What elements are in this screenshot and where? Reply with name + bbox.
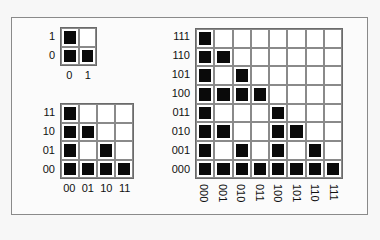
empty-cell <box>233 104 251 123</box>
empty-cell <box>214 66 232 85</box>
empty-cell <box>287 85 305 104</box>
row-label: 10 <box>37 126 55 137</box>
row-label: 0 <box>41 50 55 61</box>
column-label: 000 <box>198 184 209 202</box>
empty-cell <box>324 48 342 67</box>
filled-cell <box>115 160 133 179</box>
empty-cell <box>269 66 287 85</box>
empty-cell <box>324 122 342 141</box>
filled-cell <box>251 85 269 104</box>
empty-cell <box>306 85 324 104</box>
empty-cell <box>324 85 342 104</box>
empty-cell <box>306 29 324 48</box>
empty-cell <box>79 28 97 47</box>
filled-cell <box>269 141 287 160</box>
column-label: 111 <box>328 184 339 201</box>
empty-cell <box>251 122 269 141</box>
empty-cell <box>97 104 115 123</box>
empty-cell <box>233 29 251 48</box>
empty-cell <box>324 141 342 160</box>
filled-cell <box>61 28 79 47</box>
empty-cell <box>251 29 269 48</box>
filled-cell <box>233 66 251 85</box>
filled-cell <box>269 122 287 141</box>
empty-cell <box>287 104 305 123</box>
empty-cell <box>233 122 251 141</box>
filled-cell <box>196 160 214 179</box>
empty-cell <box>214 141 232 160</box>
empty-cell <box>287 48 305 67</box>
filled-cell <box>61 47 79 66</box>
row-label: 001 <box>166 145 190 156</box>
filled-cell <box>214 122 232 141</box>
empty-cell <box>251 104 269 123</box>
filled-cell <box>196 29 214 48</box>
empty-cell <box>306 122 324 141</box>
column-label: 010 <box>235 184 246 202</box>
empty-cell <box>324 104 342 123</box>
filled-cell <box>196 104 214 123</box>
filled-cell <box>61 141 79 160</box>
empty-cell <box>306 48 324 67</box>
empty-cell <box>269 29 287 48</box>
row-label: 111 <box>166 31 190 42</box>
empty-cell <box>251 48 269 67</box>
filled-cell <box>61 123 79 142</box>
column-label: 100 <box>272 184 283 202</box>
filled-cell <box>287 160 305 179</box>
row-label: 010 <box>166 126 190 137</box>
column-label: 01 <box>79 183 98 194</box>
filled-cell <box>61 104 79 123</box>
row-label: 101 <box>166 69 190 80</box>
filled-cell <box>79 123 97 142</box>
empty-cell <box>324 29 342 48</box>
column-label: 10 <box>97 183 116 194</box>
empty-cell <box>306 66 324 85</box>
row-label: 000 <box>166 164 190 175</box>
filled-cell <box>306 160 324 179</box>
column-label: 11 <box>116 183 135 194</box>
filled-cell <box>79 160 97 179</box>
filled-cell <box>196 85 214 104</box>
row-label: 011 <box>166 107 190 118</box>
empty-cell <box>251 141 269 160</box>
column-label: 1 <box>79 70 98 81</box>
row-label: 11 <box>37 107 55 118</box>
empty-cell <box>306 104 324 123</box>
filled-cell <box>61 160 79 179</box>
filled-cell <box>306 141 324 160</box>
filled-cell <box>97 141 115 160</box>
column-label: 001 <box>217 184 228 202</box>
grid-2x2 <box>60 27 97 66</box>
empty-cell <box>79 141 97 160</box>
empty-cell <box>251 66 269 85</box>
empty-cell <box>269 48 287 67</box>
filled-cell <box>233 141 251 160</box>
empty-cell <box>233 48 251 67</box>
filled-cell <box>233 160 251 179</box>
filled-cell <box>214 48 232 67</box>
empty-cell <box>214 104 232 123</box>
empty-cell <box>287 29 305 48</box>
empty-cell <box>79 104 97 123</box>
empty-cell <box>269 85 287 104</box>
row-label: 01 <box>37 145 55 156</box>
empty-cell <box>115 104 133 123</box>
empty-cell <box>214 29 232 48</box>
filled-cell <box>196 66 214 85</box>
column-label: 0 <box>60 70 79 81</box>
filled-cell <box>269 104 287 123</box>
filled-cell <box>196 122 214 141</box>
empty-cell <box>324 66 342 85</box>
column-label: 011 <box>254 184 265 202</box>
empty-cell <box>115 123 133 142</box>
empty-cell <box>97 123 115 142</box>
row-label: 100 <box>166 88 190 99</box>
filled-cell <box>214 160 232 179</box>
filled-cell <box>287 122 305 141</box>
grid-4x4 <box>60 103 134 179</box>
row-label: 00 <box>37 164 55 175</box>
column-label: 110 <box>309 184 320 202</box>
empty-cell <box>115 141 133 160</box>
column-label: 00 <box>60 183 79 194</box>
